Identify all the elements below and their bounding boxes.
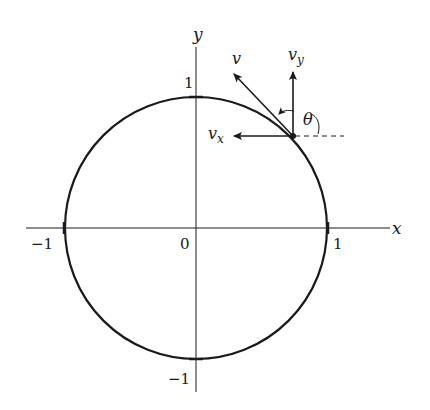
y-tick-label-neg1: −1	[168, 370, 190, 388]
x-tick-label-1: 1	[333, 235, 343, 253]
vx-vector-label: vx	[208, 124, 224, 146]
unit-circle-velocity-diagram: y x 0 −1 1 1 −1 v vy vx θ	[0, 0, 430, 410]
y-tick-label-1: 1	[184, 74, 194, 92]
theta-label: θ	[303, 110, 313, 129]
y-axis-label: y	[192, 24, 203, 44]
vy-label-subscript: y	[296, 53, 304, 67]
v-label-main: v	[232, 49, 241, 68]
x-axis-label: x	[392, 218, 402, 238]
diagram-svg: y x 0 −1 1 1 −1 v vy vx θ	[0, 0, 430, 410]
origin-label: 0	[180, 235, 190, 253]
vy-vector-label: vy	[288, 45, 304, 67]
vy-label-main: v	[288, 45, 297, 64]
x-tick-label-neg1: −1	[31, 235, 53, 253]
vx-label-subscript: x	[217, 132, 224, 146]
v-vector-label: v	[232, 49, 241, 68]
vx-label-main: v	[208, 124, 217, 143]
theta-angle-arc-upper	[279, 110, 294, 114]
